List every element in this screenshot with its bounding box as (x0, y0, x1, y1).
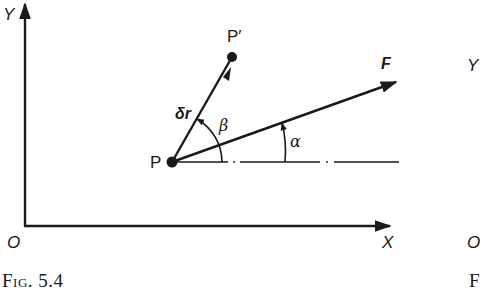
point-p-label: P (150, 154, 161, 171)
next-figure-origin-label: O (467, 234, 480, 251)
next-figure-y-label: Y (467, 57, 478, 74)
angle-alpha-arc (282, 123, 286, 162)
force-vector (172, 82, 396, 162)
displacement-label: δr (175, 106, 191, 122)
y-axis-label: Y (3, 6, 14, 23)
next-figure-caption: F (469, 271, 480, 290)
angle-alpha-label: α (290, 134, 301, 150)
x-axis-label: X (382, 234, 393, 251)
angle-beta-label: β (219, 118, 228, 134)
point-p (167, 157, 178, 168)
force-label: F (381, 56, 391, 72)
point-p-prime-label: P′ (227, 28, 242, 45)
figure-caption: Fig. 5.4 (2, 271, 64, 290)
point-p-prime (227, 52, 237, 62)
origin-label: O (7, 234, 20, 251)
